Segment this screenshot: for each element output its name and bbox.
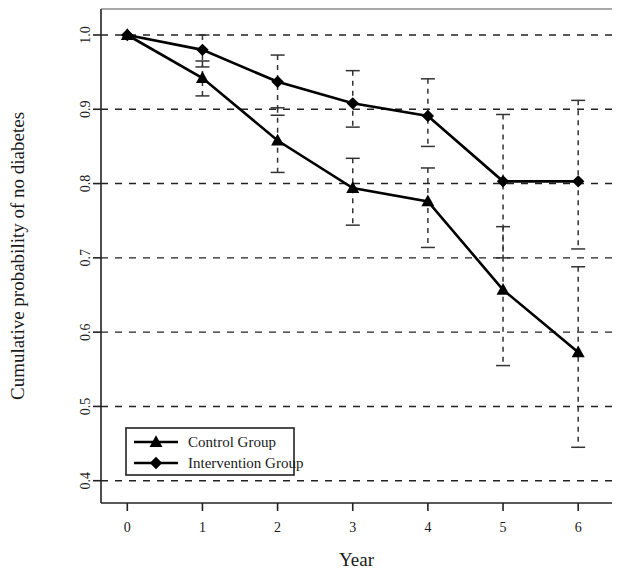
y-axis-title: Cumulative probability of no diabetes: [7, 112, 28, 400]
marker-intervention-group-year-6: [572, 175, 584, 187]
y-tick-label-0.7: 0.7: [78, 249, 93, 267]
x-tick-label-3: 3: [349, 520, 356, 535]
x-axis-tick-labels: 0123456: [124, 520, 582, 535]
x-tick-label-5: 5: [500, 520, 507, 535]
y-tick-label-0.8: 0.8: [78, 175, 93, 193]
y-axis-ticks: [93, 35, 101, 481]
marker-intervention-group-year-2: [271, 76, 283, 88]
x-axis-ticks: [127, 503, 578, 511]
x-tick-label-2: 2: [274, 520, 281, 535]
chart-container: 0123456 0.40.50.60.70.80.91.0 Control Gr…: [0, 0, 618, 582]
chart-legend: Control GroupIntervention Group: [126, 428, 303, 475]
x-axis-title: Year: [339, 549, 375, 570]
marker-intervention-group-year-3: [347, 97, 359, 109]
x-tick-label-6: 6: [575, 520, 582, 535]
series-markers: [121, 28, 585, 357]
y-tick-label-0.6: 0.6: [78, 323, 93, 341]
errorbar-1-6: [571, 100, 585, 249]
error-bars: [195, 35, 585, 447]
x-tick-label-1: 1: [199, 520, 206, 535]
y-tick-label-0.5: 0.5: [78, 398, 93, 416]
marker-control-group-year-1: [196, 71, 209, 83]
y-tick-label-0.4: 0.4: [78, 472, 93, 490]
diabetes-survival-chart: 0123456 0.40.50.60.70.80.91.0 Control Gr…: [0, 0, 618, 582]
x-tick-label-0: 0: [124, 520, 131, 535]
legend-label-intervention-group: Intervention Group: [188, 455, 303, 471]
x-tick-label-4: 4: [424, 520, 431, 535]
marker-intervention-group-year-1: [196, 44, 208, 56]
y-tick-label-1.0: 1.0: [78, 26, 93, 44]
legend-label-control-group: Control Group: [188, 434, 276, 450]
y-tick-label-0.9: 0.9: [78, 101, 93, 119]
y-axis-tick-labels: 0.40.50.60.70.80.91.0: [78, 26, 93, 489]
